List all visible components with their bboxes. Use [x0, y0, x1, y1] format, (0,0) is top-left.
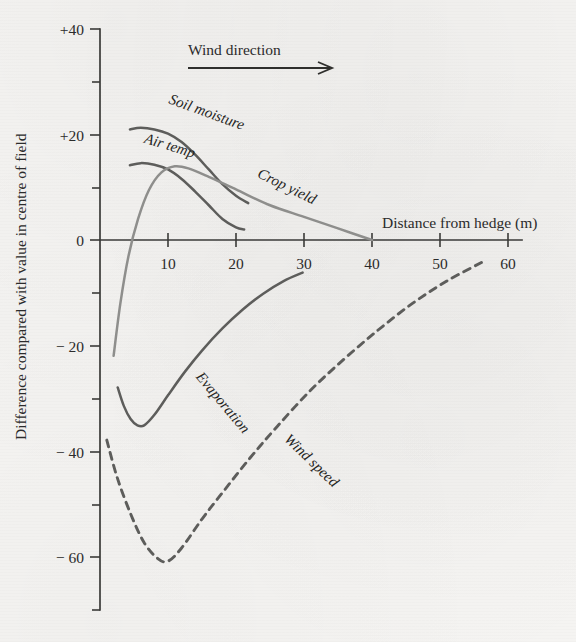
y-tick-label: +40	[60, 21, 84, 38]
series-labels: Soil moistureAir tempCrop yieldEvaporati…	[142, 91, 343, 490]
curve-wind-speed	[107, 261, 484, 562]
series-label-soil-moisture: Soil moisture	[167, 91, 247, 133]
y-axis: +40 +20 0 − 20 − 40 − 60 Difference comp…	[12, 21, 100, 610]
wind-shelter-effect-chart: +40 +20 0 − 20 − 40 − 60 Difference comp…	[0, 0, 576, 642]
y-tick-label: − 40	[56, 444, 84, 461]
curve-evaporation	[118, 273, 303, 427]
series-label-crop-yield: Crop yield	[255, 165, 319, 207]
y-tick-label: − 60	[56, 549, 84, 566]
x-tick-label: 60	[500, 255, 516, 272]
series-label-evaporation: Evaporation	[192, 368, 253, 437]
x-tick-label: 20	[228, 255, 244, 272]
y-tick-label: − 20	[56, 338, 84, 355]
x-axis-title: Distance from hedge (m)	[382, 214, 537, 232]
y-tick-label: +20	[60, 127, 84, 144]
x-tick-label: 30	[296, 255, 312, 272]
y-tick-label: 0	[76, 232, 84, 249]
wind-direction-arrow-icon	[188, 62, 332, 74]
x-tick-label: 10	[160, 255, 176, 272]
x-tick-label: 50	[432, 255, 448, 272]
x-tick-label: 40	[364, 255, 380, 272]
series-label-wind-speed: Wind speed	[282, 431, 343, 491]
wind-direction-annotation: Wind direction	[188, 41, 332, 74]
wind-direction-label: Wind direction	[188, 41, 281, 58]
chart-svg: +40 +20 0 − 20 − 40 − 60 Difference comp…	[0, 0, 576, 642]
y-axis-title: Difference compared with value in centre…	[12, 133, 29, 440]
